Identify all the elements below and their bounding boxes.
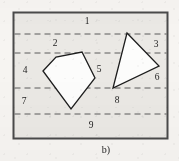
region-label-7: 7	[22, 96, 27, 106]
figure-container: 123456789 b)	[0, 0, 179, 161]
region-label-4: 4	[23, 65, 28, 75]
region-label-6: 6	[155, 72, 160, 82]
region-label-1: 1	[85, 16, 90, 26]
region-label-3: 3	[154, 39, 159, 49]
region-label-2: 2	[53, 38, 58, 48]
region-label-5: 5	[97, 64, 102, 74]
figure-diagram: 123456789 b)	[0, 0, 179, 161]
region-label-8: 8	[115, 95, 120, 105]
region-label-9: 9	[89, 120, 94, 130]
figure-caption: b)	[102, 144, 110, 156]
